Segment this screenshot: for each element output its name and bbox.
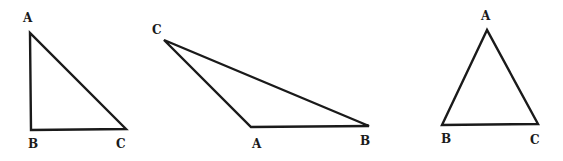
triangle-figure: A B C A B C A B C	[0, 0, 563, 161]
vertex-label-a: A	[480, 9, 491, 23]
vertex-label-b: B	[360, 134, 370, 148]
vertex-label-b: B	[441, 132, 451, 146]
acute-triangle: A B C	[441, 9, 540, 147]
triangles-canvas: A B C A B C A B C	[0, 0, 563, 161]
triangle-outline	[30, 33, 126, 130]
vertex-label-c: C	[116, 137, 126, 151]
right-triangle: A B C	[22, 11, 126, 151]
triangle-outline	[164, 40, 369, 127]
obtuse-triangle: A B C	[152, 23, 370, 151]
vertex-label-a: A	[251, 137, 262, 151]
triangle-outline	[442, 30, 538, 125]
vertex-label-c: C	[530, 133, 540, 147]
vertex-label-c: C	[152, 23, 162, 37]
vertex-label-b: B	[28, 137, 38, 151]
vertex-label-a: A	[22, 11, 33, 25]
